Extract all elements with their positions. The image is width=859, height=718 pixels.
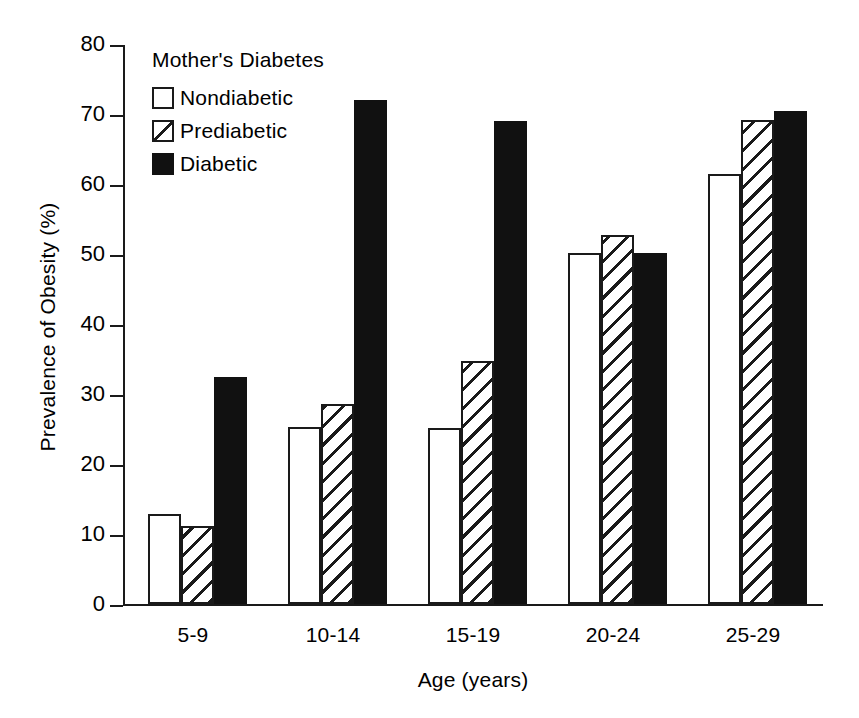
legend-swatch-diabetic-icon [152, 153, 174, 175]
legend-item-label: Diabetic [180, 152, 257, 176]
y-axis-tick-mark [110, 255, 123, 257]
y-axis-tick-label: 80 [45, 31, 105, 57]
legend-item-label: Prediabetic [180, 119, 287, 143]
y-axis-tick-mark [110, 535, 123, 537]
bar-25-29-prediabetic [741, 120, 774, 604]
legend-swatch-prediabetic-icon [152, 120, 174, 142]
y-axis-tick-label: 60 [45, 171, 105, 197]
y-axis-tick-mark [110, 45, 123, 47]
y-axis-tick-label: 0 [45, 591, 105, 617]
y-axis-tick-mark [110, 465, 123, 467]
bar-5-9-nondiabetic [148, 514, 181, 604]
x-axis-tick-label: 25-29 [683, 623, 823, 647]
x-axis-tick-label: 15-19 [403, 623, 543, 647]
bar-15-19-nondiabetic [428, 428, 461, 604]
legend-swatch-nondiabetic-icon [152, 87, 174, 109]
bar-15-19-prediabetic [461, 361, 494, 604]
bar-chart-figure: Prevalence of Obesity (%) Age (years) 01… [0, 0, 859, 718]
x-axis-tick-label: 10-14 [263, 623, 403, 647]
bar-15-19-diabetic [494, 121, 527, 604]
x-axis-label: Age (years) [123, 668, 823, 692]
x-axis-tick-label: 5-9 [123, 623, 263, 647]
y-axis-tick-mark [110, 605, 123, 607]
bar-25-29-diabetic [774, 111, 807, 605]
bar-25-29-nondiabetic [708, 174, 741, 605]
y-axis-tick-mark [110, 325, 123, 327]
bar-5-9-prediabetic [181, 526, 214, 604]
y-axis-tick-mark [110, 185, 123, 187]
bar-5-9-diabetic [214, 377, 247, 604]
bar-10-14-nondiabetic [288, 427, 321, 604]
y-axis-tick-mark [110, 115, 123, 117]
y-axis-tick-label: 70 [45, 101, 105, 127]
x-axis-spine [123, 604, 823, 606]
y-axis-tick-label: 10 [45, 521, 105, 547]
bar-20-24-diabetic [634, 253, 667, 604]
x-axis-tick-label: 20-24 [543, 623, 683, 647]
legend-item-label: Nondiabetic [180, 86, 293, 110]
bar-10-14-diabetic [354, 100, 387, 604]
y-axis-tick-mark [110, 395, 123, 397]
bar-20-24-prediabetic [601, 235, 634, 604]
y-axis-spine [123, 45, 125, 606]
y-axis-tick-label: 50 [45, 241, 105, 267]
legend-title: Mother's Diabetes [152, 48, 412, 72]
y-axis-tick-label: 20 [45, 451, 105, 477]
y-axis-tick-label: 40 [45, 311, 105, 337]
bar-10-14-prediabetic [321, 404, 354, 604]
bar-20-24-nondiabetic [568, 253, 601, 604]
y-axis-tick-label: 30 [45, 381, 105, 407]
